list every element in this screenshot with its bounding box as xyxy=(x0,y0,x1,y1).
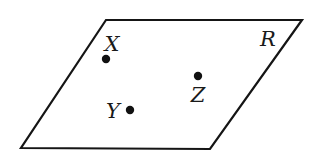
point-z-dot xyxy=(194,72,202,80)
point-x-label: X xyxy=(103,32,121,56)
plane-diagram: R X Y Z xyxy=(0,0,313,153)
point-y-label: Y xyxy=(106,99,122,123)
point-y-dot xyxy=(126,106,134,114)
point-x-dot xyxy=(102,55,110,63)
point-z-label: Z xyxy=(190,83,206,107)
plane-label-r: R xyxy=(259,27,276,51)
